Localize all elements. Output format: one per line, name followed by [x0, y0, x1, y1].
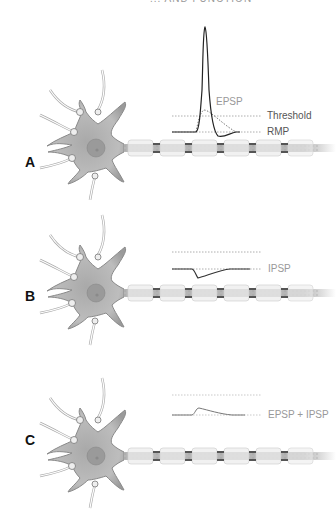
neuron-a-illustration: [0, 0, 336, 200]
epsp-ipsp-graph: [172, 395, 262, 415]
panel-label-a: A: [25, 154, 35, 170]
panel-c: C EPSP + IPSP: [0, 360, 336, 513]
threshold-label: Threshold: [267, 110, 311, 121]
ipsp-label: IPSP: [268, 263, 291, 274]
panel-a: A EPSP Threshold RMP: [0, 0, 336, 200]
action-potential-graph: [172, 27, 262, 136]
panel-label-c: C: [25, 432, 35, 448]
rmp-label: RMP: [267, 126, 289, 137]
panel-label-b: B: [25, 288, 35, 304]
neuron-c-illustration: [0, 360, 336, 513]
epsp-label: EPSP: [216, 96, 243, 107]
ipsp-graph: [172, 252, 262, 278]
neuron-b-illustration: [0, 200, 336, 360]
panel-b: B IPSP: [0, 200, 336, 360]
epsp-ipsp-label: EPSP + IPSP: [268, 409, 329, 420]
